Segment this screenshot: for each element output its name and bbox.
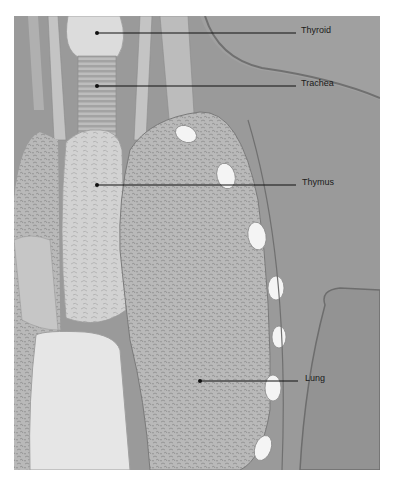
trachea-dot	[95, 84, 99, 88]
label-thymus: Thymus	[302, 177, 334, 187]
label-trachea: Trachea	[301, 78, 334, 88]
label-lung: Lung	[305, 373, 325, 383]
lung-dot	[198, 379, 202, 383]
label-thyroid: Thyroid	[301, 25, 331, 35]
thymus-dot	[95, 183, 99, 187]
thyroid-dot	[95, 31, 99, 35]
